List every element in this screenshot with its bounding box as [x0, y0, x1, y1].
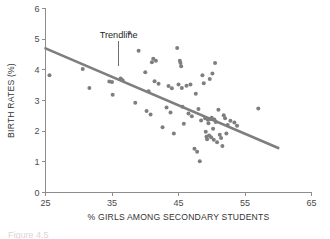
data-point	[165, 106, 169, 110]
data-point	[169, 110, 173, 114]
figure-scatter-birth-rates: 01234562535455565% GIRLS AMONG SECONDARY…	[0, 0, 330, 239]
data-point	[216, 108, 220, 112]
data-point	[172, 132, 176, 136]
data-point	[228, 119, 232, 123]
data-point	[167, 84, 171, 88]
y-tick-label: 0	[34, 188, 39, 198]
data-point	[226, 123, 230, 127]
data-point	[204, 130, 208, 134]
trendline	[46, 48, 279, 148]
data-point	[81, 67, 85, 71]
data-point	[190, 114, 194, 118]
y-axis-title: BIRTH RATES (%)	[6, 63, 16, 138]
data-point	[186, 111, 190, 115]
data-point	[47, 73, 51, 77]
data-point	[175, 46, 179, 50]
data-point	[145, 109, 149, 113]
data-point	[157, 82, 161, 86]
data-point	[202, 81, 206, 85]
data-point	[210, 72, 214, 76]
data-point	[188, 83, 192, 87]
data-point	[235, 124, 239, 128]
data-point	[232, 121, 236, 125]
data-point	[137, 49, 141, 53]
data-point	[154, 59, 158, 63]
data-point	[198, 159, 202, 163]
data-point	[179, 64, 183, 68]
data-point	[211, 127, 215, 131]
data-point	[200, 73, 204, 77]
y-tick-label: 4	[34, 65, 39, 75]
data-points-group	[47, 31, 260, 163]
data-point	[220, 144, 224, 148]
data-point	[182, 122, 186, 126]
data-point	[223, 116, 227, 120]
data-point	[170, 86, 174, 90]
x-tick-label: 35	[107, 198, 117, 208]
data-point	[214, 120, 218, 124]
y-tick-label: 6	[34, 4, 39, 14]
y-tick-label: 3	[34, 96, 39, 106]
x-tick-label: 55	[240, 198, 250, 208]
data-point	[184, 84, 188, 88]
data-point	[205, 137, 209, 141]
data-point	[111, 93, 115, 97]
data-point	[213, 61, 217, 65]
data-point	[161, 125, 165, 129]
data-point	[215, 140, 219, 144]
data-point	[133, 101, 137, 105]
y-tick-label: 5	[34, 34, 39, 44]
y-tick-label: 2	[34, 126, 39, 136]
figure-caption: Figure 4.5	[8, 230, 208, 239]
data-point	[192, 147, 196, 151]
data-point	[194, 92, 198, 96]
data-point	[153, 79, 157, 83]
data-point	[143, 70, 147, 74]
data-point	[180, 86, 184, 90]
x-tick-label: 65	[306, 198, 316, 208]
data-point	[87, 86, 91, 90]
x-axis-title: % GIRLS AMONG SECONDARY STUDENTS	[88, 212, 270, 222]
data-point	[147, 89, 151, 93]
data-point	[180, 105, 184, 109]
data-point	[121, 78, 125, 82]
data-point	[199, 118, 203, 122]
x-tick-label: 45	[173, 198, 183, 208]
data-point	[224, 132, 228, 136]
data-point	[212, 138, 216, 142]
data-point	[149, 113, 153, 117]
y-tick-label: 1	[34, 157, 39, 167]
data-point	[196, 107, 200, 111]
data-point	[195, 150, 199, 154]
data-point	[110, 80, 114, 84]
annotation-label: Trendline	[100, 30, 138, 40]
x-tick-label: 25	[40, 198, 50, 208]
data-point	[256, 106, 260, 110]
data-point	[219, 136, 223, 140]
data-point	[177, 83, 181, 87]
scatter-plot: 01234562535455565% GIRLS AMONG SECONDARY…	[0, 0, 330, 239]
data-point	[208, 77, 212, 81]
data-point	[206, 121, 210, 125]
